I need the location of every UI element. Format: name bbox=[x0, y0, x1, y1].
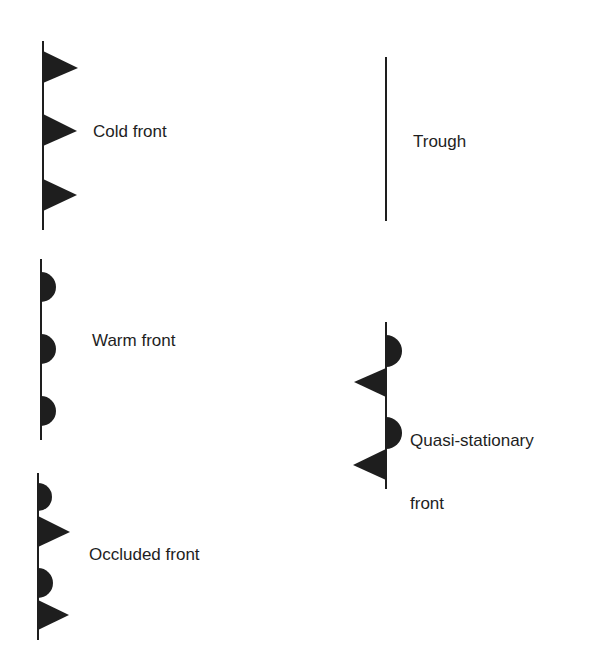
warm-front-semicircle-icon bbox=[41, 272, 56, 302]
occluded-front-label: Occluded front bbox=[89, 544, 200, 565]
occluded-front-symbol bbox=[38, 473, 70, 640]
occluded-front-triangle-icon bbox=[38, 600, 69, 630]
cold-front-symbol bbox=[43, 41, 78, 230]
cold-front-triangle-icon bbox=[43, 179, 77, 211]
quasi-stationary-front-symbol bbox=[353, 322, 402, 489]
cold-front-triangle-icon bbox=[43, 114, 77, 146]
trough-label: Trough bbox=[413, 131, 466, 152]
occluded-front-triangle-icon bbox=[38, 516, 70, 547]
occluded-front-semicircle-icon bbox=[38, 568, 53, 598]
warm-front-semicircle-icon bbox=[41, 334, 56, 364]
quasi-stationary-triangle-icon bbox=[353, 449, 386, 480]
quasi-stationary-front-label: Quasi-stationary front bbox=[410, 388, 534, 535]
warm-front-symbol bbox=[41, 259, 56, 440]
cold-front-label: Cold front bbox=[93, 121, 167, 142]
warm-front-semicircle-icon bbox=[41, 396, 56, 426]
quasi-stationary-label-line1: Quasi-stationary bbox=[410, 430, 534, 451]
occluded-front-semicircle-icon bbox=[38, 483, 52, 511]
quasi-stationary-label-line2: front bbox=[410, 493, 534, 514]
warm-front-label: Warm front bbox=[92, 330, 175, 351]
quasi-stationary-triangle-icon bbox=[354, 368, 386, 397]
quasi-stationary-semicircle-icon bbox=[386, 335, 402, 367]
cold-front-triangle-icon bbox=[43, 51, 78, 83]
quasi-stationary-semicircle-icon bbox=[386, 417, 402, 449]
